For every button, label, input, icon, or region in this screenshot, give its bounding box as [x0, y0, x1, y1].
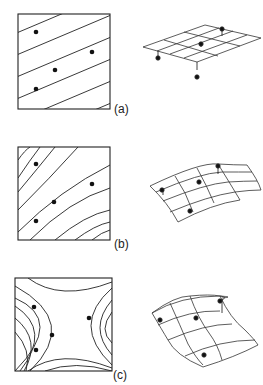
data-point	[34, 348, 39, 353]
data-point	[34, 87, 39, 92]
panel-b-surface-mesh	[150, 164, 261, 222]
panel-b-label: (b)	[114, 237, 129, 251]
data-point	[90, 182, 95, 187]
panel-a-surface-mesh	[143, 25, 261, 79]
data-point	[32, 305, 37, 310]
data-point	[34, 162, 39, 167]
panel-a-label: (a)	[114, 102, 129, 116]
data-point	[34, 30, 39, 35]
data-point	[52, 200, 57, 205]
data-point	[90, 50, 95, 55]
data-point	[50, 333, 55, 338]
panel-b-contour-map	[18, 147, 110, 240]
panel-c-contour-map	[15, 278, 112, 371]
trend-surface-figure: (a)	[0, 0, 263, 385]
panel-c-surface-mesh	[152, 295, 258, 367]
data-point	[53, 68, 58, 73]
data-point	[34, 219, 39, 224]
data-point	[87, 316, 92, 321]
panel-a-contour-map	[0, 0, 130, 150]
panel-c-label: (c)	[113, 368, 127, 382]
